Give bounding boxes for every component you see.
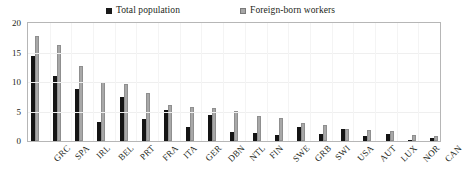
vertical-gridline (136, 23, 137, 141)
vertical-gridline (397, 23, 398, 141)
vertical-gridline (332, 23, 333, 141)
x-tick-label: GRC (52, 143, 73, 164)
x-tick-label: ITA (181, 143, 199, 161)
x-tick-label: IRL (94, 143, 112, 161)
vertical-gridline (93, 23, 94, 141)
y-tick-label: 20 (12, 19, 21, 28)
bar-foreign-born-workers (390, 131, 394, 141)
vertical-gridline (353, 23, 354, 141)
y-axis: 05101520 (0, 22, 25, 142)
bar-foreign-born-workers (367, 130, 371, 141)
gridline (28, 112, 440, 113)
x-tick-label: PRT (138, 143, 157, 162)
bar-foreign-born-workers (79, 66, 83, 141)
bar-foreign-born-workers (412, 135, 416, 141)
x-tick-label: DBN (226, 143, 247, 164)
gridline (28, 82, 440, 83)
bar-foreign-born-workers (257, 116, 261, 141)
x-tick-label: NTL (247, 143, 267, 163)
vertical-gridline (288, 23, 289, 141)
bar-foreign-born-workers (168, 105, 172, 141)
vertical-gridline (245, 23, 246, 141)
legend-item-foreign-born-workers: Foreign-born workers (240, 5, 335, 16)
bar-foreign-born-workers (57, 45, 61, 141)
legend-swatch-total-icon (106, 8, 112, 14)
vertical-gridline (158, 23, 159, 141)
legend-item-total-population: Total population (106, 5, 180, 16)
y-tick-label: 0 (17, 137, 22, 146)
bar-foreign-born-workers (323, 125, 327, 141)
vertical-gridline (50, 23, 51, 141)
bar-foreign-born-workers (212, 108, 216, 141)
vertical-gridline (418, 23, 419, 141)
y-tick-label: 10 (12, 78, 21, 87)
x-axis: GRCSPAIRLBELPRTFRAITAGERDBNNTLFINSWEGRBS… (27, 143, 441, 185)
bar-foreign-born-workers (434, 136, 438, 141)
x-tick-label: BEL (117, 143, 137, 163)
plot-area (27, 22, 441, 142)
x-tick-label: GRB (312, 143, 333, 164)
legend-label-total: Total population (116, 5, 180, 16)
x-tick-label: FRA (160, 143, 180, 163)
bar-foreign-born-workers (146, 93, 150, 141)
x-tick-label: CAN (442, 143, 463, 164)
x-tick-label: LUX (399, 143, 420, 164)
y-tick-label: 5 (17, 107, 22, 116)
x-tick-label: FIN (268, 143, 286, 161)
legend-label-foreign: Foreign-born workers (250, 5, 335, 16)
legend-swatch-foreign-icon (240, 8, 246, 14)
bar-foreign-born-workers (301, 123, 305, 141)
x-tick-label: AUT (377, 143, 398, 164)
vertical-gridline (71, 23, 72, 141)
vertical-gridline (180, 23, 181, 141)
gridline (28, 53, 440, 54)
vertical-gridline (310, 23, 311, 141)
x-tick-label: SPA (73, 143, 92, 162)
vertical-gridline (115, 23, 116, 141)
vertical-gridline (267, 23, 268, 141)
chart-legend: Total population Foreign-born workers (0, 4, 453, 20)
bar-foreign-born-workers (234, 111, 238, 141)
x-tick-label: USA (355, 143, 375, 163)
x-tick-label: SWE (291, 143, 312, 164)
vertical-gridline (223, 23, 224, 141)
x-tick-label: SWI (333, 143, 352, 162)
y-tick-label: 15 (12, 48, 21, 57)
vertical-gridline (375, 23, 376, 141)
bar-foreign-born-workers (345, 129, 349, 141)
x-tick-label: GER (204, 143, 224, 163)
x-tick-label: NOR (421, 143, 442, 164)
vertical-gridline (201, 23, 202, 141)
bar-foreign-born-workers (279, 118, 283, 141)
